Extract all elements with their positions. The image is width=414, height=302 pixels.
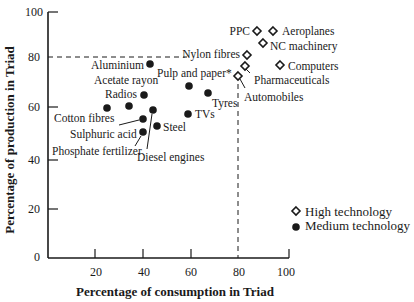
label-phosphate-fertilizer: Phosphate fertilizer (52, 145, 142, 158)
point-phosphate-fertilizer (139, 128, 147, 136)
y-tick-80: 80 (28, 50, 40, 64)
label-aeroplanes: Aeroplanes (282, 25, 335, 38)
point-diesel-engines (149, 106, 157, 114)
label-computers: Computers (288, 60, 339, 73)
point-aeroplanes (269, 27, 277, 35)
x-axis-title: Percentage of consumption in Triad (76, 284, 275, 299)
x-tick-40: 40 (138, 265, 150, 279)
y-axis-title: Percentage of production in Triad (2, 45, 17, 233)
legend-medium-marker (292, 223, 300, 231)
point-tyres (204, 89, 212, 97)
point-ppc (253, 27, 261, 35)
label-aluminium: Aluminium (91, 59, 144, 71)
point-nylon-fibres (243, 51, 251, 59)
x-tick-80: 80 (233, 265, 245, 279)
y-tick-labels: 100 80 60 40 20 0 (25, 5, 43, 264)
legend-high-label: High technology (305, 204, 393, 219)
point-steel (153, 122, 161, 130)
scatter-chart: 100 80 60 40 20 0 20 40 60 80 100 Percen… (0, 0, 414, 302)
label-tyres: Tyres (212, 97, 238, 110)
label-pharmaceuticals: Pharmaceuticals (254, 74, 330, 86)
label-cotton-fibres: Cotton fibres (54, 112, 115, 124)
y-tick-0: 0 (34, 250, 40, 264)
label-tvs: TVs (195, 108, 215, 120)
label-radios: Radios (105, 88, 137, 100)
y-tick-20: 20 (28, 202, 40, 216)
point-automobiles (234, 72, 242, 80)
legend-medium-label: Medium technology (305, 218, 411, 233)
label-steel: Steel (163, 121, 186, 133)
label-nylon-fibres: Nylon fibres (182, 48, 240, 61)
point-computers (276, 61, 284, 69)
legend: High technology Medium technology (292, 204, 411, 233)
x-tick-100: 100 (277, 265, 295, 279)
point-radios (140, 91, 148, 99)
label-sulphuric-acid: Sulphuric acid (70, 128, 137, 141)
point-sulphuric-acid (139, 115, 147, 123)
point-cotton-fibres (103, 104, 111, 112)
y-tick-40: 40 (28, 153, 40, 167)
label-diesel-engines: Diesel engines (137, 151, 205, 164)
point-pharmaceuticals (241, 62, 249, 70)
x-tick-labels: 20 40 60 80 100 (90, 265, 295, 279)
label-acetate-rayon: Acetate rayon (94, 74, 158, 87)
point-nc-machinery (259, 39, 267, 47)
x-tick-60: 60 (185, 265, 197, 279)
point-tvs (184, 110, 192, 118)
point-aluminium (146, 60, 154, 68)
label-pulp-and-paper: Pulp and paper* (157, 67, 232, 80)
legend-high-marker (292, 207, 300, 215)
label-automobiles: Automobiles (244, 91, 304, 103)
y-tick-100: 100 (25, 5, 43, 19)
label-ppc: PPC (230, 25, 251, 37)
point-acetate-rayon (125, 102, 133, 110)
point-labels: PPC Aeroplanes NC machinery Nylon fibres… (52, 25, 339, 164)
label-nc-machinery: NC machinery (270, 40, 338, 53)
point-pulp-and-paper (185, 82, 193, 90)
y-tick-60: 60 (28, 100, 40, 114)
x-tick-20: 20 (90, 265, 102, 279)
